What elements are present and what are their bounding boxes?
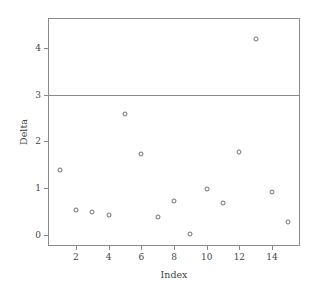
y-tick-label: 3: [35, 90, 41, 99]
x-tick-mark: [272, 245, 273, 250]
y-tick-mark: [44, 141, 49, 142]
data-point: [90, 210, 95, 215]
x-tick-label: 12: [234, 253, 245, 262]
data-point: [253, 36, 258, 41]
x-tick-mark: [239, 245, 240, 250]
scatter-plot-figure: 01234 2468101214 Index Delta: [0, 0, 322, 292]
data-point: [204, 186, 209, 191]
data-point: [270, 189, 275, 194]
x-tick-mark: [207, 245, 208, 250]
y-tick-mark: [44, 95, 49, 96]
data-point: [188, 231, 193, 236]
data-point: [172, 198, 177, 203]
data-point: [106, 213, 111, 218]
x-tick-label: 6: [138, 253, 144, 262]
y-tick-mark: [44, 235, 49, 236]
data-point: [286, 219, 291, 224]
data-point: [139, 152, 144, 157]
plot-area: 01234 2468101214 Index Delta: [48, 18, 300, 246]
x-tick-label: 8: [171, 253, 177, 262]
x-tick-label: 2: [73, 253, 79, 262]
data-point: [57, 168, 62, 173]
reference-line-threshold: [49, 95, 299, 96]
data-point: [221, 200, 226, 205]
y-tick-mark: [44, 48, 49, 49]
y-axis-title: Delta: [18, 119, 29, 145]
x-tick-mark: [109, 245, 110, 250]
y-tick-label: 2: [35, 137, 41, 146]
x-tick-label: 4: [106, 253, 112, 262]
data-point: [237, 149, 242, 154]
y-tick-label: 4: [35, 43, 41, 52]
x-tick-mark: [174, 245, 175, 250]
x-axis-title: Index: [49, 269, 299, 280]
x-tick-mark: [141, 245, 142, 250]
data-point: [122, 112, 127, 117]
y-tick-label: 0: [35, 230, 41, 239]
x-tick-mark: [76, 245, 77, 250]
y-tick-mark: [44, 188, 49, 189]
data-point: [155, 214, 160, 219]
data-point: [73, 208, 78, 213]
x-tick-label: 10: [201, 253, 212, 262]
x-tick-label: 14: [266, 253, 277, 262]
y-tick-label: 1: [35, 184, 41, 193]
